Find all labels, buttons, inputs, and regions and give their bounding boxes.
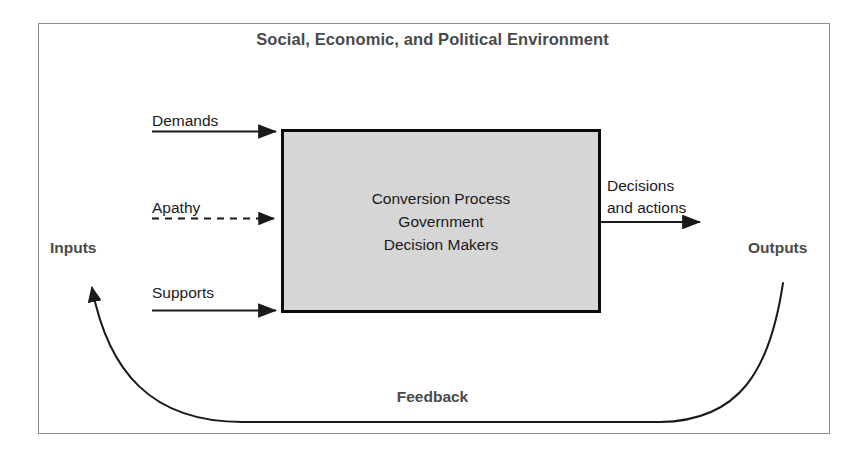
systems-model-diagram: Social, Economic, and Political Environm…	[0, 0, 865, 454]
decisions-and-actions-label: Decisions and actions	[607, 175, 757, 219]
inputs-label: Inputs	[50, 239, 97, 257]
decisions-line-1: Decisions	[607, 175, 757, 197]
conversion-process-box	[281, 129, 601, 313]
feedback-label: Feedback	[0, 388, 865, 406]
apathy-label: Apathy	[152, 199, 200, 217]
demands-label: Demands	[152, 112, 218, 130]
outputs-label: Outputs	[748, 239, 807, 257]
decisions-line-2: and actions	[607, 197, 757, 219]
supports-label: Supports	[152, 284, 214, 302]
environment-title: Social, Economic, and Political Environm…	[0, 30, 865, 49]
